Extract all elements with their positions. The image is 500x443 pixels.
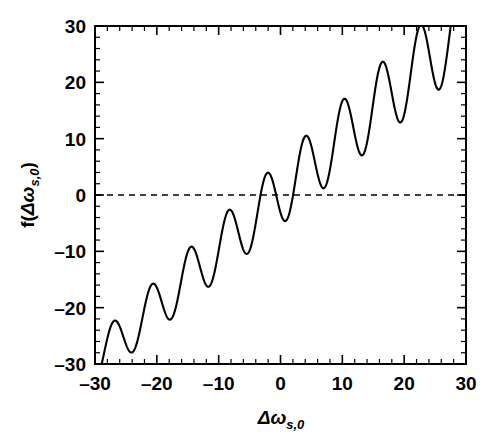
x-axis-title-sub: s,0 — [286, 417, 305, 432]
x-tick-label: 20 — [394, 373, 415, 394]
data-curve — [95, 0, 466, 384]
x-tick-label: 10 — [332, 373, 353, 394]
x-axis-title-main: Δω — [257, 407, 287, 428]
y-tick-label: 20 — [65, 72, 86, 93]
y-axis-title: f(Δωs,0) — [17, 162, 42, 228]
x-tick-label: –10 — [203, 373, 235, 394]
y-tick-label: –10 — [54, 241, 86, 262]
y-axis-title-suffix: ) — [17, 162, 38, 168]
x-axis-minor-ticks — [107, 26, 453, 364]
figure-container: –30–20–100102030 3020100–10–20–30 Δωs,0 … — [0, 0, 500, 443]
y-axis-minor-ticks — [95, 37, 466, 352]
x-tick-label: –20 — [141, 373, 173, 394]
chart-canvas: –30–20–100102030 3020100–10–20–30 Δωs,0 … — [0, 0, 500, 443]
y-axis-title-prefix: f( — [17, 215, 38, 228]
x-tick-label: –30 — [79, 373, 111, 394]
x-axis-tick-labels: –30–20–100102030 — [79, 373, 476, 394]
y-tick-label: –30 — [54, 354, 86, 375]
y-axis-title-main: Δω — [17, 186, 38, 216]
y-tick-label: –20 — [54, 298, 86, 319]
y-tick-label: 30 — [65, 16, 86, 37]
y-axis-title-sub: s,0 — [27, 168, 42, 187]
x-tick-label: 0 — [275, 373, 286, 394]
y-axis-tick-labels: 3020100–10–20–30 — [54, 16, 86, 375]
x-axis-title: Δωs,0 — [257, 407, 305, 432]
x-tick-label: 30 — [455, 373, 476, 394]
y-tick-label: 0 — [75, 185, 86, 206]
y-tick-label: 10 — [65, 129, 86, 150]
